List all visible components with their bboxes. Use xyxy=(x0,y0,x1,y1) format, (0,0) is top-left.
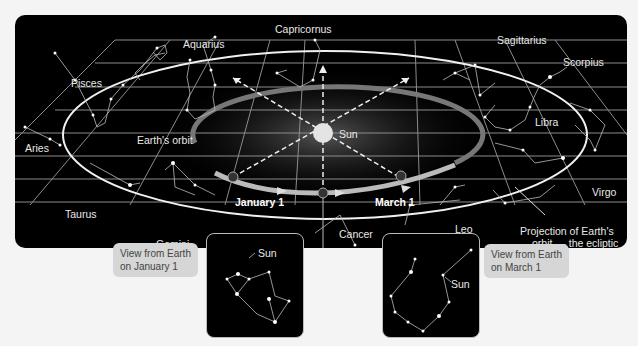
label-january-1: January 1 xyxy=(235,197,284,208)
label-earths-orbit: Earth's orbit xyxy=(137,135,193,146)
inset-january-sun-label: Sun xyxy=(258,248,277,259)
label-aquarius: Aquarius xyxy=(183,39,224,50)
sky-grid-graphic xyxy=(15,15,627,248)
label-libra: Libra xyxy=(535,117,558,128)
label-sun: Sun xyxy=(339,129,358,140)
callout-january-line2: on January 1 xyxy=(120,260,191,273)
callout-march-line2: on March 1 xyxy=(491,261,562,274)
label-march-1: March 1 xyxy=(375,197,415,208)
celestial-sphere-panel: Pisces Aquarius Capricornus Sagittarius … xyxy=(15,15,627,248)
label-scorpius: Scorpius xyxy=(563,57,604,68)
label-taurus: Taurus xyxy=(65,209,97,220)
label-pisces: Pisces xyxy=(71,78,102,89)
callout-march-line1: View from Earth xyxy=(491,248,562,261)
inset-march-view: Sun xyxy=(382,233,480,338)
january-constellation-graphic xyxy=(207,234,303,337)
label-virgo: Virgo xyxy=(592,187,616,198)
callout-january: View from Earth on January 1 xyxy=(113,243,198,277)
callout-march: View from Earth on March 1 xyxy=(484,244,569,278)
label-capricornus: Capricornus xyxy=(275,24,332,35)
label-aries: Aries xyxy=(25,143,49,154)
label-ecliptic-line1: Projection of Earth's xyxy=(520,226,614,237)
label-cancer: Cancer xyxy=(339,229,373,240)
inset-march-sun-label: Sun xyxy=(451,279,470,290)
label-sagittarius: Sagittarius xyxy=(497,35,547,46)
inset-january-view: Sun xyxy=(206,233,304,338)
callout-january-line1: View from Earth xyxy=(120,247,191,260)
